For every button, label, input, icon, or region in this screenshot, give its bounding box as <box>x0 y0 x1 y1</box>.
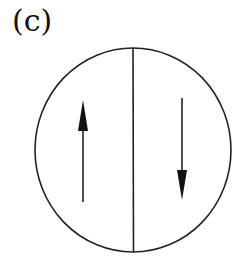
arrow-up-icon <box>78 100 88 202</box>
domain-wall-divider <box>133 48 134 252</box>
arrow-down-icon <box>177 98 187 200</box>
domain-diagram <box>0 0 246 264</box>
